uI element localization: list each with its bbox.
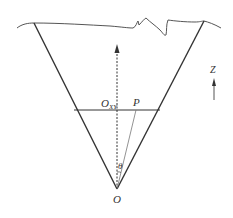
cone-right-edge <box>117 21 204 189</box>
axis-arrowhead-icon <box>115 44 120 53</box>
label-center-oxy: O <box>101 97 109 109</box>
label-center-subscript: XY <box>108 103 118 111</box>
label-z-axis: Z <box>210 64 216 75</box>
angle-arc <box>117 172 121 173</box>
cone-diagram: Z O XY P θ O <box>0 0 233 218</box>
label-point-p: P <box>132 96 140 108</box>
z-arrowhead-icon <box>212 78 216 86</box>
line-o-to-p <box>117 110 136 189</box>
label-angle-theta: θ <box>118 161 123 171</box>
surface-profile <box>17 18 221 35</box>
label-apex-o: O <box>113 193 121 205</box>
